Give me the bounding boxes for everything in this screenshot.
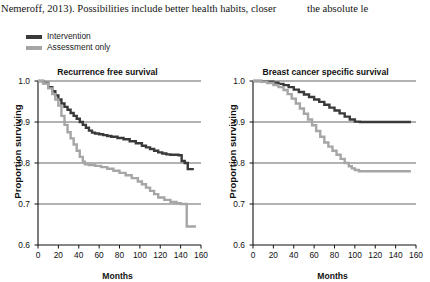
y-tick-label: 1.0: [8, 76, 30, 86]
y-axis-label-right: Proportion surviving: [227, 92, 238, 212]
x-tick-label: 40: [68, 250, 90, 260]
x-tick-label: 120: [364, 250, 386, 260]
x-tick-label: 140: [170, 250, 192, 260]
y-tick-label: 0.8: [223, 158, 245, 168]
plot-area-left: 0.60.70.80.91.0020406080100120140160: [38, 81, 201, 245]
body-text-column-left: Nemeroff, 2013). Possibilities include b…: [1, 2, 276, 16]
x-tick-label: 160: [190, 250, 212, 260]
x-tick-label: 120: [149, 250, 171, 260]
x-tick-label: 60: [88, 250, 110, 260]
plot-svg-left: [38, 81, 201, 245]
y-tick-label: 0.6: [8, 240, 30, 250]
y-tick-label: 0.6: [223, 240, 245, 250]
x-tick-label: 80: [109, 250, 131, 260]
legend-label-intervention: Intervention: [47, 32, 91, 41]
y-tick-label: 0.7: [8, 199, 30, 209]
body-text-line: Nemeroff, 2013). Possibilities include b…: [0, 2, 430, 18]
x-tick-label: 160: [405, 250, 427, 260]
x-tick-label: 100: [129, 250, 151, 260]
x-tick-label: 140: [385, 250, 407, 260]
x-axis-label-right: Months: [245, 271, 420, 281]
y-axis-label-left: Proportion surviving: [12, 92, 23, 212]
y-tick-label: 0.7: [223, 199, 245, 209]
legend-item-intervention: Intervention: [26, 32, 110, 41]
legend-label-assessment-only: Assessment only: [47, 43, 110, 52]
y-tick-label: 0.8: [8, 158, 30, 168]
chart-title-right: Breast cancer specific survival: [215, 67, 430, 77]
y-tick-label: 1.0: [223, 76, 245, 86]
plot-area-right: 0.60.70.80.91.0020406080100120140160: [253, 81, 416, 245]
plot-svg-right: [253, 81, 416, 245]
x-tick-label: 100: [344, 250, 366, 260]
chart-title-left: Recurrence free survival: [0, 67, 215, 77]
legend-swatch-assessment-only: [26, 46, 42, 50]
legend-item-assessment-only: Assessment only: [26, 43, 110, 52]
x-axis-label-left: Months: [30, 271, 205, 281]
x-tick-label: 40: [283, 250, 305, 260]
chart-legend: Intervention Assessment only: [26, 32, 110, 52]
body-text-column-right: the absolute le: [307, 2, 368, 16]
legend-swatch-intervention: [26, 35, 42, 39]
chart-panel-recurrence-free-survival: Recurrence free survival Proportion surv…: [0, 64, 215, 282]
x-tick-label: 0: [242, 250, 264, 260]
y-tick-label: 0.9: [8, 117, 30, 127]
chart-panel-breast-cancer-specific-survival: Breast cancer specific survival Proporti…: [215, 64, 430, 282]
x-tick-label: 0: [27, 250, 49, 260]
x-tick-label: 20: [262, 250, 284, 260]
y-tick-label: 0.9: [223, 117, 245, 127]
x-tick-label: 20: [47, 250, 69, 260]
x-tick-label: 80: [324, 250, 346, 260]
x-tick-label: 60: [303, 250, 325, 260]
